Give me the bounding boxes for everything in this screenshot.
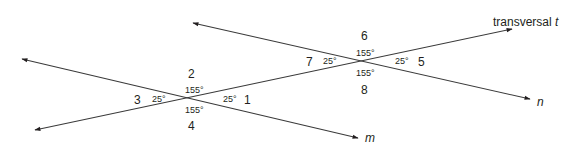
angle-degrees-7: 25°: [323, 56, 337, 66]
line-m-label: m: [365, 131, 375, 145]
angle-number-2: 2: [188, 67, 195, 81]
parallel-lines-transversal-diagram: m n transversal t 1 25° 2 155° 3 25° 4 1…: [0, 0, 571, 152]
angle-degrees-2: 155°: [185, 85, 204, 95]
transversal-t-label: transversal t: [493, 15, 559, 29]
transversal-prefix: transversal: [493, 15, 555, 29]
angle-degrees-5: 25°: [395, 56, 409, 66]
angle-degrees-8: 155°: [356, 68, 375, 78]
angle-number-1: 1: [244, 93, 251, 107]
angle-number-4: 4: [188, 119, 195, 133]
angle-degrees-4: 155°: [185, 105, 204, 115]
angle-number-5: 5: [418, 55, 425, 69]
transversal-t: [35, 29, 512, 130]
angle-number-6: 6: [361, 29, 368, 43]
intersection-n-t: 5 25° 6 155° 7 25° 8 155°: [306, 29, 425, 97]
angle-degrees-1: 25°: [223, 94, 237, 104]
angle-degrees-6: 155°: [356, 48, 375, 58]
transversal-var: t: [555, 15, 559, 29]
angle-number-7: 7: [306, 55, 313, 69]
angle-degrees-3: 25°: [152, 94, 166, 104]
angle-number-8: 8: [361, 83, 368, 97]
intersection-m-t: 1 25° 2 155° 3 25° 4 155°: [134, 67, 251, 133]
angle-number-3: 3: [134, 93, 141, 107]
line-n-label: n: [537, 95, 544, 109]
